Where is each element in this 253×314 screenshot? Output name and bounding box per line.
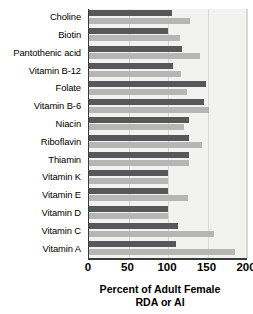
category-label-niacin: Niacin xyxy=(0,119,81,129)
bar-group xyxy=(89,45,247,63)
bar-dark xyxy=(89,63,173,69)
plot-area xyxy=(88,9,247,258)
bar-light xyxy=(89,18,190,24)
bar-dark xyxy=(89,28,168,34)
category-label-vitamin-b-12: Vitamin B-12 xyxy=(0,66,81,76)
category-label-vitamin-e: Vitamin E xyxy=(0,190,81,200)
x-axis-title: Percent of Adult FemaleRDA or AI xyxy=(70,283,250,308)
bar-dark xyxy=(89,46,182,52)
category-label-folate: Folate xyxy=(0,83,81,93)
bar-light xyxy=(89,178,168,184)
bar-light xyxy=(89,195,188,201)
bar-dark xyxy=(89,241,176,247)
bar-light xyxy=(89,124,184,130)
bar-group xyxy=(89,169,247,187)
category-axis-labels: CholineBiotinPantothenic acidVitamin B-1… xyxy=(0,9,84,258)
category-label-vitamin-c: Vitamin C xyxy=(0,226,81,236)
bar-group xyxy=(89,151,247,169)
bar-dark xyxy=(89,10,172,16)
x-tick-label-0: 0 xyxy=(85,261,91,273)
bar-dark xyxy=(89,188,168,194)
x-axis-title-line-1: Percent of Adult Female xyxy=(70,283,250,296)
bar-light xyxy=(89,142,202,148)
x-tick-label-100: 100 xyxy=(157,261,176,273)
category-label-vitamin-d: Vitamin D xyxy=(0,208,81,218)
x-axis-title-line-2: RDA or AI xyxy=(70,296,250,309)
category-label-vitamin-a: Vitamin A xyxy=(0,244,81,254)
category-label-riboflavin: Riboflavin xyxy=(0,137,81,147)
bar-dark xyxy=(89,152,189,158)
x-tick-label-200: 200 xyxy=(236,261,253,273)
bar-dark xyxy=(89,206,168,212)
bar-light xyxy=(89,71,181,77)
bar-group xyxy=(89,98,247,116)
gridline-200 xyxy=(247,9,248,258)
bar-light xyxy=(89,53,200,59)
bar-dark xyxy=(89,135,189,141)
bar-group xyxy=(89,9,247,27)
bar-group xyxy=(89,62,247,80)
bar-light xyxy=(89,249,235,255)
bar-light xyxy=(89,89,187,95)
bar-light xyxy=(89,213,168,219)
bar-group xyxy=(89,27,247,45)
bar-dark xyxy=(89,223,178,229)
category-label-pantothenic-acid: Pantothenic acid xyxy=(0,48,81,58)
bar-group xyxy=(89,222,247,240)
category-label-choline: Choline xyxy=(0,12,81,22)
category-label-biotin: Biotin xyxy=(0,30,81,40)
x-axis-tick-labels: 050100150200 xyxy=(88,261,247,277)
bar-light xyxy=(89,35,180,41)
x-tick-label-50: 50 xyxy=(121,261,134,273)
bar-dark xyxy=(89,81,206,87)
bar-dark xyxy=(89,99,204,105)
bar-group xyxy=(89,240,247,258)
bar-group xyxy=(89,134,247,152)
category-label-thiamin: Thiamin xyxy=(0,155,81,165)
bar-light xyxy=(89,107,209,113)
bar-group xyxy=(89,80,247,98)
bar-group xyxy=(89,116,247,134)
bar-group xyxy=(89,187,247,205)
bar-group xyxy=(89,205,247,223)
category-label-vitamin-k: Vitamin K xyxy=(0,172,81,182)
vitamin-rda-bar-chart: CholineBiotinPantothenic acidVitamin B-1… xyxy=(0,0,253,314)
x-tick-label-150: 150 xyxy=(197,261,216,273)
x-axis-line xyxy=(88,258,247,260)
category-label-vitamin-b-6: Vitamin B-6 xyxy=(0,101,81,111)
bar-light xyxy=(89,160,189,166)
bar-dark xyxy=(89,170,168,176)
bar-light xyxy=(89,231,214,237)
bar-dark xyxy=(89,117,189,123)
